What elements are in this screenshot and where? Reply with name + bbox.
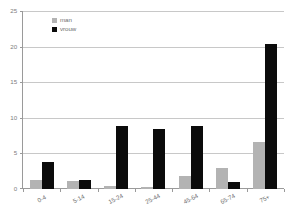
x-label-cell: 75+ — [247, 192, 284, 216]
legend-swatch-icon-vrouw — [52, 27, 57, 32]
bar-man[interactable] — [179, 176, 191, 189]
bar-group — [23, 11, 60, 189]
x-tick-label: 45-64 — [182, 193, 198, 205]
bar-group — [98, 11, 135, 189]
bar-man[interactable] — [30, 180, 42, 189]
y-tick-label-20: 20 — [0, 44, 17, 50]
legend-label-man: man — [60, 17, 72, 23]
x-tick-label: 75+ — [259, 194, 271, 204]
x-tick-label: 15-24 — [108, 193, 124, 205]
y-tick-label-0: 0 — [0, 186, 17, 192]
bar-vrouw[interactable] — [265, 44, 277, 189]
bar-vrouw[interactable] — [42, 162, 54, 189]
x-tick-label: 65-74 — [220, 193, 236, 205]
bar-group — [172, 11, 209, 189]
x-tick-label: 0-4 — [36, 194, 47, 203]
x-tick-label: 5-14 — [72, 194, 85, 205]
bar-man[interactable] — [253, 142, 265, 189]
bar-group — [135, 11, 172, 189]
bar-group — [60, 11, 97, 189]
x-label-cell: 0-4 — [23, 192, 60, 216]
bar-vrouw[interactable] — [191, 126, 203, 189]
x-label-cell: 45-64 — [172, 192, 209, 216]
chart-legend: man vrouw — [52, 17, 76, 33]
y-tick-label-25: 25 — [0, 8, 17, 14]
legend-item-vrouw[interactable]: vrouw — [52, 26, 76, 33]
bar-man[interactable] — [67, 181, 79, 189]
x-tick-label: 25-44 — [145, 193, 161, 205]
y-tick-label-10: 10 — [0, 115, 17, 121]
x-label-cell: 15-24 — [98, 192, 135, 216]
bar-vrouw[interactable] — [228, 182, 240, 189]
bar-vrouw[interactable] — [153, 129, 165, 189]
legend-label-vrouw: vrouw — [60, 26, 76, 32]
bar-vrouw[interactable] — [116, 126, 128, 189]
bar-vrouw[interactable] — [79, 180, 91, 189]
x-axis-labels: 0-45-1415-2425-4445-6465-7475+ — [23, 192, 284, 216]
y-axis: 25 20 15 10 5 0 — [0, 11, 20, 189]
legend-swatch-icon-man — [52, 18, 57, 23]
bar-group — [209, 11, 246, 189]
bar-group — [247, 11, 284, 189]
legend-item-man[interactable]: man — [52, 17, 76, 24]
bar-chart: 25 20 15 10 5 0 0-45-1415-2425-4445-6465… — [0, 0, 293, 216]
x-label-cell: 25-44 — [135, 192, 172, 216]
y-tick-label-5: 5 — [0, 150, 17, 156]
x-tick-mark — [284, 189, 285, 192]
x-label-cell: 5-14 — [60, 192, 97, 216]
bars-layer — [23, 11, 284, 189]
y-tick-label-15: 15 — [0, 79, 17, 85]
bar-man[interactable] — [216, 168, 228, 189]
x-label-cell: 65-74 — [209, 192, 246, 216]
